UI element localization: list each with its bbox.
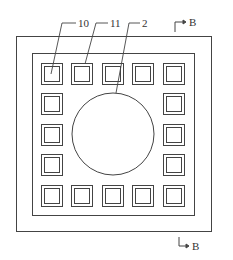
- cell: [42, 64, 63, 85]
- cell: [72, 186, 93, 207]
- cell: [164, 155, 185, 176]
- inner-frame: [33, 54, 195, 216]
- cell: [103, 186, 124, 207]
- cell: [42, 125, 63, 146]
- outer-frame: [17, 37, 212, 232]
- cell: [42, 94, 63, 115]
- label-10: 10: [78, 17, 90, 29]
- cell: [133, 186, 154, 207]
- label-11: 11: [110, 17, 121, 29]
- cell: [164, 64, 185, 85]
- cell: [164, 125, 185, 146]
- cell: [42, 155, 63, 176]
- diagram-canvas: 10 11 2 B B: [0, 0, 233, 260]
- cell: [164, 94, 185, 115]
- label-2: 2: [142, 17, 148, 29]
- cell: [164, 186, 185, 207]
- cell-grid: [42, 64, 185, 207]
- section-arrow-bottom-icon: [179, 237, 189, 248]
- center-circle: [72, 93, 154, 175]
- leader-lines: [51, 23, 140, 93]
- section-arrow-top-icon: [175, 20, 186, 32]
- cell: [72, 64, 93, 85]
- cell: [42, 186, 63, 207]
- section-label-bottom: B: [192, 240, 199, 252]
- cell: [133, 64, 154, 85]
- cell: [103, 64, 124, 85]
- section-label-top: B: [189, 16, 196, 28]
